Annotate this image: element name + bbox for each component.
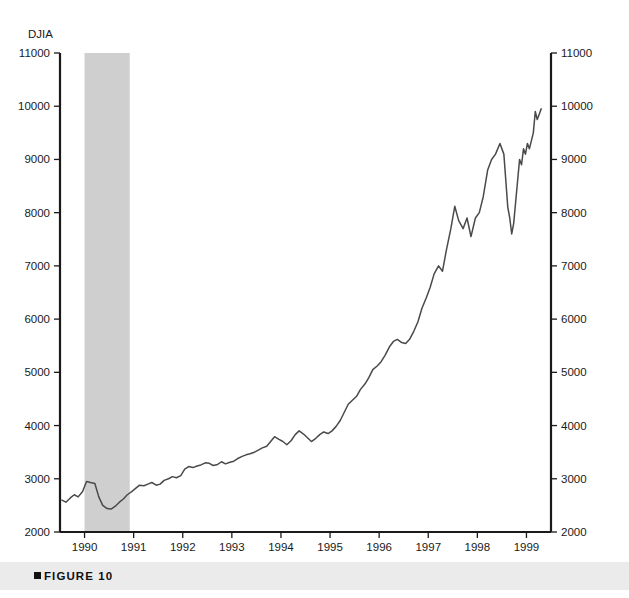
figure-caption-bar: FIGURE 10 <box>0 562 629 590</box>
recession-band <box>85 53 130 532</box>
y-tick-label-right: 4000 <box>561 420 587 432</box>
figure-caption-label: FIGURE 10 <box>44 570 113 582</box>
y-tick-label-right: 7000 <box>561 260 587 272</box>
x-tick-label: 1991 <box>121 541 147 553</box>
y-tick-label-left: 6000 <box>24 313 50 325</box>
y-tick-label-right: 5000 <box>561 366 587 378</box>
y-tick-label-left: 11000 <box>19 47 50 59</box>
y-axis-right: 2000300040005000600070008000900010000110… <box>551 47 593 538</box>
y-tick-label-left: 10000 <box>18 100 50 112</box>
y-tick-label-left: 4000 <box>24 420 50 432</box>
y-axis-left: 2000300040005000600070008000900010000110… <box>18 47 60 538</box>
y-tick-label-left: 9000 <box>24 153 50 165</box>
y-tick-label-left: 8000 <box>24 207 50 219</box>
x-tick-label: 1993 <box>219 541 245 553</box>
y-tick-label-right: 3000 <box>561 473 587 485</box>
y-tick-label-left: 5000 <box>24 366 50 378</box>
y-tick-label-left: 2000 <box>24 526 50 538</box>
y-tick-label-right: 6000 <box>561 313 587 325</box>
y-tick-label-right: 11000 <box>561 47 592 59</box>
y-tick-label-right: 10000 <box>561 100 593 112</box>
x-axis-bottom: 1990199119921993199419951996199719981999 <box>60 532 551 553</box>
y-tick-label-right: 9000 <box>561 153 587 165</box>
x-tick-label: 1994 <box>268 541 294 553</box>
figure-caption: FIGURE 10 <box>34 570 113 582</box>
djia-line-chart: 2000300040005000600070008000900010000110… <box>0 0 629 560</box>
x-tick-label: 1995 <box>317 541 343 553</box>
y-axis-title: DJIA <box>28 28 53 40</box>
square-bullet-icon <box>34 572 41 579</box>
x-tick-label: 1999 <box>514 541 540 553</box>
figure-container: 2000300040005000600070008000900010000110… <box>0 0 629 598</box>
x-tick-label: 1998 <box>465 541 491 553</box>
recession-band <box>85 53 130 532</box>
y-tick-label-left: 3000 <box>24 473 50 485</box>
y-tick-label-right: 2000 <box>561 526 587 538</box>
x-tick-label: 1992 <box>170 541 196 553</box>
x-tick-label: 1996 <box>366 541 392 553</box>
plot-background <box>60 53 551 532</box>
x-tick-label: 1997 <box>415 541 441 553</box>
x-tick-label: 1990 <box>72 541 98 553</box>
y-tick-label-right: 8000 <box>561 207 587 219</box>
y-tick-label-left: 7000 <box>24 260 50 272</box>
